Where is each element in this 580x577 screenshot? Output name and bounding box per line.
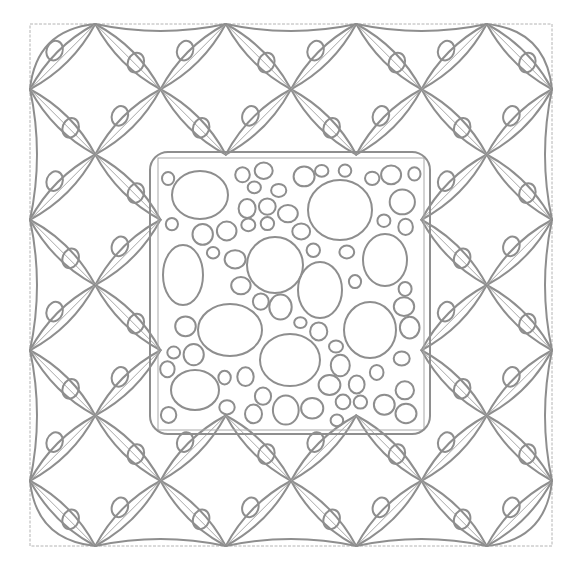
outer-border bbox=[30, 24, 552, 546]
quilt-pattern bbox=[0, 0, 580, 577]
diamond-lattice bbox=[30, 24, 552, 546]
pebble-center bbox=[150, 152, 430, 434]
loop-motifs bbox=[44, 38, 539, 531]
